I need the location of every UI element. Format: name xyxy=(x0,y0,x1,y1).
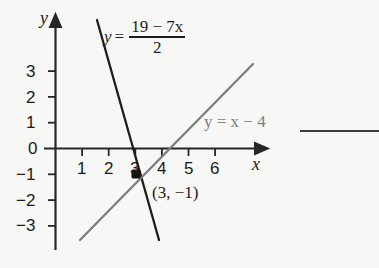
equation-label-steep-line: y = 19 − 7x 2 xyxy=(104,18,185,56)
x-tick-label-3: 3 xyxy=(130,160,139,177)
x-tick-label-1: 1 xyxy=(77,160,86,177)
y-axis-label: y xyxy=(40,9,48,27)
y-tick-label-0: 0 xyxy=(28,140,37,157)
side-rule-divider xyxy=(300,130,379,132)
x-tick-label-5: 5 xyxy=(184,160,193,177)
equation-steep-equals: = xyxy=(115,28,125,45)
y-tick-label-neg2: −2 xyxy=(16,192,35,209)
coordinate-plane xyxy=(0,0,379,268)
equation-steep-fraction: 19 − 7x 2 xyxy=(129,18,185,56)
y-tick-label-neg1: −1 xyxy=(16,166,35,183)
x-axis-label: x xyxy=(252,155,260,173)
x-tick-label-4: 4 xyxy=(157,160,166,177)
equation-steep-lhs: y xyxy=(104,28,112,45)
y-tick-label-1: 1 xyxy=(26,114,35,131)
equation-steep-denominator: 2 xyxy=(151,38,164,56)
line-gray xyxy=(80,64,253,240)
graph-figure: y x 3 2 1 0 −1 −2 −3 1 2 3 4 5 6 y = 19 … xyxy=(0,0,379,268)
equation-steep-numerator: 19 − 7x xyxy=(129,18,185,36)
y-tick-label-2: 2 xyxy=(26,89,35,106)
y-tick-label-3: 3 xyxy=(26,63,35,80)
intersection-point-label: (3, −1) xyxy=(152,184,198,201)
x-axis-ticks xyxy=(82,149,215,157)
y-tick-label-neg3: −3 xyxy=(16,217,35,234)
x-tick-label-6: 6 xyxy=(210,160,219,177)
equation-label-gray-line: y = x − 4 xyxy=(204,113,266,130)
x-tick-label-2: 2 xyxy=(104,160,113,177)
